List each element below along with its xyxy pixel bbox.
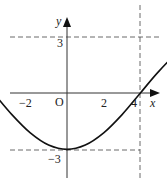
origin-label: O — [55, 95, 64, 109]
y-tick-label-neg3: −3 — [48, 152, 61, 166]
x-tick-label-2: 2 — [101, 96, 107, 110]
x-axis-label: x — [149, 96, 156, 110]
y-tick-label-3: 3 — [57, 36, 63, 50]
x-tick-label-4: 4 — [131, 96, 137, 110]
function-graph: y x O −2 2 4 3 −3 — [0, 0, 167, 182]
y-axis-arrow-icon — [63, 17, 71, 27]
y-axis-label: y — [55, 14, 62, 28]
x-tick-label-neg2: −2 — [19, 96, 32, 110]
